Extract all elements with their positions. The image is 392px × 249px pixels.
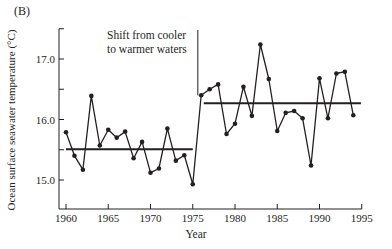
- data-point: [250, 114, 255, 119]
- x-tick-label: 1990: [309, 212, 332, 224]
- data-point: [283, 111, 288, 116]
- x-tick-label: 1975: [182, 212, 205, 224]
- data-point: [241, 85, 246, 90]
- data-point: [216, 82, 221, 87]
- data-point: [182, 153, 187, 158]
- axes: 15.016.017.01960196519701975198019851990…: [36, 29, 374, 224]
- data-point: [114, 135, 119, 140]
- data-point: [148, 170, 153, 175]
- data-point: [207, 87, 212, 92]
- data-point: [190, 182, 195, 187]
- y-tick-label: 15.0: [36, 174, 56, 186]
- data-point: [98, 143, 103, 148]
- data-point: [81, 167, 86, 172]
- data-point: [258, 42, 263, 47]
- data-series: [64, 42, 356, 186]
- data-point: [292, 109, 297, 114]
- x-tick-label: 1970: [140, 212, 163, 224]
- temperature-line: [66, 45, 353, 185]
- data-point: [300, 116, 305, 121]
- x-tick-label: 1960: [55, 212, 78, 224]
- data-point: [267, 77, 272, 82]
- x-tick-label: 1985: [266, 212, 289, 224]
- data-point: [89, 94, 94, 99]
- temperature-chart: 15.016.017.01960196519701975198019851990…: [0, 0, 392, 249]
- data-point: [157, 166, 162, 171]
- x-tick-label: 1965: [97, 212, 120, 224]
- x-tick-label: 1995: [351, 212, 374, 224]
- y-tick-label: 17.0: [36, 53, 56, 65]
- data-point: [351, 113, 356, 118]
- data-point: [343, 69, 348, 74]
- data-point: [224, 132, 229, 137]
- data-point: [199, 93, 204, 98]
- y-tick-label: 16.0: [36, 114, 56, 126]
- data-point: [275, 129, 280, 134]
- data-point: [233, 121, 238, 126]
- data-point: [174, 158, 179, 163]
- x-tick-label: 1980: [224, 212, 247, 224]
- data-point: [106, 127, 111, 132]
- data-point: [123, 129, 128, 134]
- data-point: [165, 126, 170, 131]
- data-point: [131, 156, 136, 161]
- data-point: [334, 71, 339, 76]
- data-point: [317, 76, 322, 81]
- data-point: [309, 163, 314, 168]
- data-point: [140, 140, 145, 145]
- data-point: [72, 154, 77, 159]
- data-point: [326, 116, 331, 121]
- data-point: [64, 130, 69, 135]
